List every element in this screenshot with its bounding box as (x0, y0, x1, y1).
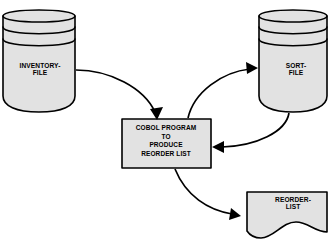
node-cobol-program[interactable] (122, 119, 211, 168)
flowchart-diagram: INVENTORY- FILE SORT- FILE COBOL PROGRAM… (0, 0, 336, 247)
node-inventory-file[interactable] (3, 10, 75, 112)
connector-program-to-reorder-line (175, 169, 232, 214)
node-reorder-list[interactable] (247, 192, 327, 238)
connector-program-to-sort (188, 62, 258, 118)
connector-program-to-sort-line (188, 69, 250, 118)
node-sort-file[interactable] (259, 10, 327, 112)
connector-sort-to-program (212, 113, 289, 153)
connector-program-to-sort-arrowhead (246, 62, 258, 74)
connector-sort-to-program-arrowhead (212, 141, 224, 153)
sort-file-body (259, 10, 327, 112)
connector-inventory-to-program-arrowhead (150, 107, 163, 120)
connector-inventory-to-program (76, 70, 163, 120)
connector-program-to-reorder (175, 169, 241, 220)
inventory-file-body (3, 10, 75, 112)
flowchart-canvas (0, 0, 336, 247)
reorder-list-document (247, 192, 327, 238)
connector-inventory-to-program-line (76, 70, 155, 112)
connector-program-to-reorder-arrowhead (229, 208, 241, 220)
connector-sort-to-program-line (222, 113, 289, 147)
cobol-program-box (122, 119, 211, 168)
